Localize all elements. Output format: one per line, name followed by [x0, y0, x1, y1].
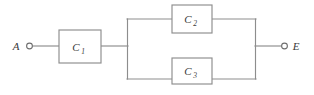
- component-c1[interactable]: C 1: [59, 30, 101, 63]
- terminal-e[interactable]: E: [282, 40, 300, 52]
- terminal-e-node-icon[interactable]: [282, 43, 288, 49]
- circuit-diagram-canvas: C 1 C 2 C 3 A E: [0, 0, 314, 95]
- terminal-e-label: E: [292, 40, 300, 52]
- terminal-a-label: A: [12, 40, 20, 52]
- terminal-a-node-icon[interactable]: [27, 43, 33, 49]
- component-c3-subscript: 3: [192, 71, 197, 80]
- circuit-diagram-svg: C 1 C 2 C 3 A E: [0, 0, 314, 95]
- component-c3-box[interactable]: [172, 58, 212, 84]
- component-c2-subscript: 2: [193, 19, 197, 28]
- component-c2[interactable]: C 2: [172, 5, 212, 33]
- component-c2-box[interactable]: [172, 5, 212, 33]
- component-c1-subscript: 1: [81, 47, 85, 56]
- component-c3[interactable]: C 3: [172, 58, 212, 84]
- component-c1-label: C: [72, 41, 80, 53]
- terminal-a[interactable]: A: [12, 40, 33, 52]
- component-c1-box[interactable]: [59, 30, 101, 63]
- component-c2-label: C: [184, 13, 192, 25]
- component-c3-label: C: [184, 65, 192, 77]
